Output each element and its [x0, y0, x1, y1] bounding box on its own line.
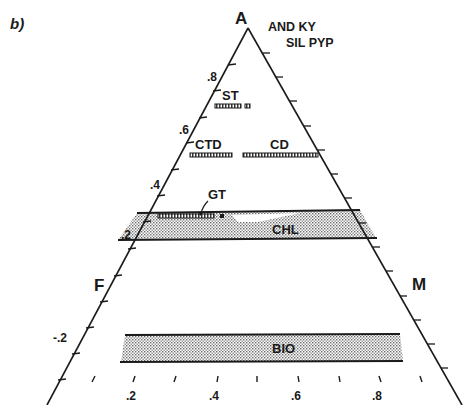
apex-annotation-line1: AND KY [268, 20, 317, 34]
left-tick-label-0.6: .6 [179, 123, 189, 137]
ctd-label: CTD [195, 137, 222, 152]
cd-bar [243, 153, 318, 157]
gt-label: GT [208, 187, 226, 202]
bottom-tick-label-0.2: .2 [126, 389, 136, 403]
bio-upper-line [125, 334, 400, 335]
bottom-tick-label-0.6: .6 [291, 389, 301, 403]
bio-label: BIO [272, 341, 295, 356]
cd-label: CD [270, 137, 289, 152]
st-bar [215, 104, 241, 108]
st-label: ST [222, 88, 239, 103]
left-tick-label-0.8: .8 [207, 70, 217, 84]
panel-label: b) [10, 15, 24, 32]
bottom-tick-label-0.4: .4 [209, 389, 219, 403]
gt-dot [220, 214, 224, 218]
ctd-bar [190, 153, 232, 157]
chl-field [118, 210, 376, 240]
vertex-a-label: A [235, 9, 247, 28]
bottom-tick-label-0.8: .8 [372, 389, 382, 403]
apex-annotation-line2: SIL PYP [286, 36, 334, 50]
bottom-ticks [92, 376, 422, 382]
chl-label: CHL [272, 222, 299, 237]
st-dot [245, 104, 250, 108]
gt-bar [158, 214, 214, 218]
vertex-f-label: F [94, 276, 104, 295]
bio-field [121, 334, 403, 362]
left-tick-label-neg0.2: -.2 [53, 331, 67, 345]
left-tick-label-0.2: .2 [121, 228, 131, 242]
left-tick-label-0.4: .4 [150, 178, 160, 192]
vertex-m-label: M [412, 275, 426, 294]
afm-ternary-diagram: b) A F M AND KY SIL PYP ST CTD CD GT CHL… [0, 0, 473, 405]
bio-lower-line [120, 361, 403, 362]
